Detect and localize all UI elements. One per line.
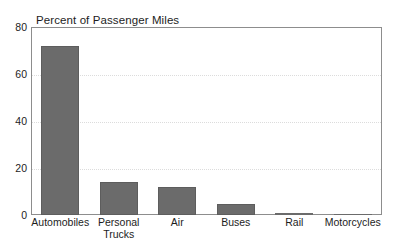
bar: [100, 182, 138, 215]
y-tick-label: 40: [3, 116, 27, 127]
y-tick-label: 0: [3, 210, 27, 221]
y-tick-label: 60: [3, 69, 27, 80]
bar: [41, 46, 79, 215]
bars-group: [31, 27, 382, 215]
bar: [275, 213, 313, 215]
y-tick-label: 20: [3, 163, 27, 174]
y-tick-label: 80: [3, 22, 27, 33]
bar: [334, 214, 372, 215]
x-axis: AutomobilesPersonal TrucksAirBusesRailMo…: [31, 217, 382, 247]
bar-chart: Percent of Passenger Miles 020406080 Aut…: [0, 0, 395, 249]
chart-title: Percent of Passenger Miles: [36, 14, 179, 26]
x-tick-label: Motorcycles: [318, 217, 389, 229]
bar: [158, 187, 196, 215]
bar: [217, 204, 255, 215]
y-axis: 020406080: [0, 27, 27, 215]
